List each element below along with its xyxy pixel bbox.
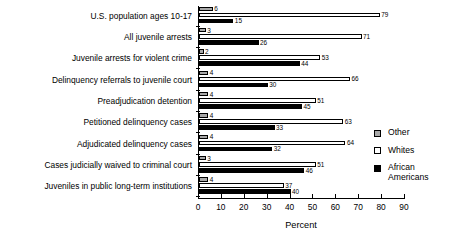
bar-white xyxy=(199,141,345,146)
x-tick-label: 90 xyxy=(394,202,414,212)
bar-value-label: 26 xyxy=(260,40,267,46)
x-tick-label: 50 xyxy=(302,202,322,212)
bar-value-label: 51 xyxy=(317,162,324,168)
bar-other xyxy=(199,156,206,161)
bar-other xyxy=(199,92,208,97)
bar-black xyxy=(199,40,259,45)
legend-item-other[interactable]: Other xyxy=(374,128,452,138)
bar-other xyxy=(199,28,206,33)
x-tick-label: 10 xyxy=(211,202,231,212)
bar-white xyxy=(199,98,316,103)
legend-swatch-icon xyxy=(374,165,381,172)
bar-other xyxy=(199,49,204,54)
bar-other xyxy=(199,135,208,140)
x-tick-label: 80 xyxy=(371,202,391,212)
legend: OtherWhitesAfrican Americans xyxy=(374,128,452,190)
bar-value-label: 63 xyxy=(345,119,352,125)
x-tick-label: 60 xyxy=(325,202,345,212)
bar-other xyxy=(199,113,208,118)
bar-group: 46630 xyxy=(199,70,405,91)
bar-white xyxy=(199,162,316,167)
bar-group: 67915 xyxy=(199,6,405,27)
bar-other xyxy=(199,177,208,182)
bar-value-label: 33 xyxy=(276,125,283,131)
x-tick-label: 0 xyxy=(188,202,208,212)
group-tick xyxy=(196,132,200,133)
category-label: Delinquency referrals to juvenile court xyxy=(0,76,192,85)
x-tick-label: 70 xyxy=(348,202,368,212)
category-label: Juvenile arrests for violent crime xyxy=(0,54,192,63)
category-label: Adjudicated delinquency cases xyxy=(0,140,192,149)
bar-value-label: 30 xyxy=(269,82,276,88)
legend-item-white[interactable]: Whites xyxy=(374,146,452,156)
bar-value-label: 40 xyxy=(292,189,299,195)
bar-other xyxy=(199,7,213,12)
bar-other xyxy=(199,71,208,76)
x-tick-label: 20 xyxy=(234,202,254,212)
bar-value-label: 71 xyxy=(363,34,370,40)
bar-value-label: 15 xyxy=(235,18,242,24)
bar-value-label: 51 xyxy=(317,98,324,104)
bar-value-label: 46 xyxy=(306,168,313,174)
bar-value-label: 64 xyxy=(347,140,354,146)
bar-value-label: 45 xyxy=(304,104,311,110)
legend-label: Whites xyxy=(388,146,452,156)
category-label: Cases judicially waived to criminal cour… xyxy=(0,161,192,170)
bar-black xyxy=(199,189,291,194)
bar-black xyxy=(199,125,275,130)
bar-group: 37126 xyxy=(199,27,405,48)
group-tick xyxy=(196,196,200,197)
bar-black xyxy=(199,147,272,152)
group-tick xyxy=(196,68,200,69)
category-label: All juvenile arrests xyxy=(0,33,192,42)
x-tick-label: 40 xyxy=(280,202,300,212)
bar-white xyxy=(199,34,362,39)
bar-group: 25344 xyxy=(199,49,405,70)
x-tick-label: 30 xyxy=(257,202,277,212)
bar-value-label: 53 xyxy=(322,55,329,61)
category-label: U.S. population ages 10-17 xyxy=(0,12,192,21)
category-label: Preadjudication detention xyxy=(0,97,192,106)
category-label: Juveniles in public long-term institutio… xyxy=(0,182,192,191)
category-axis-labels: U.S. population ages 10-17All juvenile a… xyxy=(0,6,196,198)
legend-label: African Americans xyxy=(388,163,452,182)
bar-black xyxy=(199,61,300,66)
x-axis-line xyxy=(198,198,404,199)
bar-black xyxy=(199,19,233,24)
category-label: Petitioned delinquency cases xyxy=(0,118,192,127)
bar-chart: U.S. population ages 10-17All juvenile a… xyxy=(0,0,452,242)
bar-white xyxy=(199,119,343,124)
legend-swatch-icon xyxy=(374,147,381,154)
bar-value-label: 66 xyxy=(352,76,359,82)
x-axis-title: Percent xyxy=(198,220,404,230)
bar-white xyxy=(199,13,380,18)
bar-white xyxy=(199,183,284,188)
bar-value-label: 32 xyxy=(274,146,281,152)
legend-swatch-icon xyxy=(374,130,381,137)
bar-value-label: 79 xyxy=(381,12,388,18)
bar-group: 45145 xyxy=(199,91,405,112)
legend-item-black[interactable]: African Americans xyxy=(374,163,452,182)
bar-value-label: 44 xyxy=(301,61,308,67)
bar-black xyxy=(199,168,304,173)
bar-black xyxy=(199,83,268,88)
legend-label: Other xyxy=(388,128,452,138)
bar-black xyxy=(199,104,302,109)
